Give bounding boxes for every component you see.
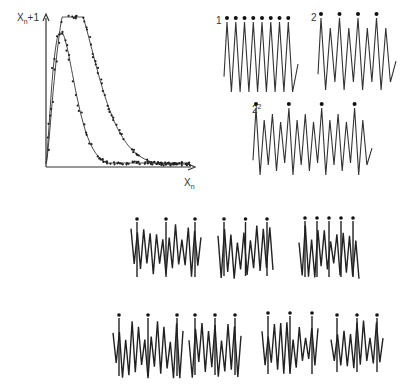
outer-data-point — [94, 60, 96, 62]
outer-data-point — [115, 124, 117, 126]
period-1-label-text: 1 — [216, 15, 222, 26]
peak-marker-dot — [310, 311, 314, 315]
inner-data-point — [64, 39, 66, 41]
outer-data-point — [71, 15, 73, 17]
outer-data-point — [108, 108, 110, 110]
inner-data-point — [85, 132, 87, 134]
outer-data-point — [108, 111, 110, 113]
peak-marker-dot — [260, 16, 264, 20]
period-1-label: 1 — [216, 16, 222, 26]
peak-marker-dot — [269, 16, 273, 20]
outer-data-point — [60, 21, 62, 23]
return-map-plot — [43, 14, 195, 170]
outer-data-point — [97, 67, 99, 69]
peak-marker-dot — [213, 313, 217, 317]
outer-data-point — [89, 36, 91, 38]
peak-marker-dot — [225, 16, 229, 20]
y-axis-label-main: X — [17, 12, 24, 23]
inner-data-point — [86, 134, 88, 136]
chaotic-series-1 — [131, 217, 201, 277]
periodic-series-1 — [224, 16, 298, 92]
inner-data-point — [153, 161, 155, 163]
inner-data-point — [168, 163, 170, 165]
peak-marker-dot — [315, 216, 319, 220]
peak-marker-dot — [251, 16, 255, 20]
outer-data-point — [58, 42, 60, 44]
outer-data-point — [131, 148, 133, 150]
chaotic-series-6 — [262, 311, 318, 374]
outer-data-point — [86, 28, 88, 30]
inner-data-point — [51, 67, 53, 69]
outer-data-point — [181, 164, 183, 166]
peak-marker-dot — [287, 102, 291, 106]
inner-data-point — [144, 163, 146, 165]
outer-data-point — [100, 78, 102, 80]
inner-data-point — [66, 44, 68, 46]
outer-data-point — [95, 63, 97, 65]
outer-data-point — [68, 15, 70, 17]
outer-data-point — [162, 164, 164, 166]
peak-marker-dot — [353, 102, 357, 106]
outer-data-point — [112, 117, 114, 119]
outer-data-point — [48, 149, 50, 151]
peak-marker-dot — [355, 313, 359, 317]
peak-marker-dot — [233, 313, 237, 317]
period-4-label: 22 — [252, 103, 261, 115]
outer-data-point — [83, 20, 85, 22]
chaotic-series-7 — [331, 313, 383, 372]
inner-data-point — [134, 161, 136, 163]
peak-marker-dot — [375, 12, 379, 16]
outer-data-point — [92, 56, 94, 58]
outer-data-point — [138, 154, 140, 156]
peak-marker-dot — [327, 216, 331, 220]
inner-data-point — [106, 162, 108, 164]
peak-marker-dot — [193, 313, 197, 317]
inner-data-point — [68, 59, 70, 61]
peak-marker-dot — [351, 216, 355, 220]
inner-data-point — [175, 162, 177, 164]
period-2-label: 2 — [311, 13, 317, 23]
inner-data-point — [109, 163, 111, 165]
inner-data-point — [151, 163, 153, 165]
outer-data-point — [111, 114, 113, 116]
peak-marker-dot — [288, 311, 292, 315]
period-4-label-exponent: 2 — [258, 103, 262, 110]
outer-data-point — [90, 44, 92, 46]
inner-data-point — [83, 123, 85, 125]
outer-data-point — [102, 90, 104, 92]
peak-marker-dot — [164, 217, 168, 221]
x-axis-label-main: X — [184, 177, 191, 188]
inner-fit-curve — [46, 33, 189, 163]
outer-data-point — [97, 72, 99, 74]
peak-marker-dot — [320, 102, 324, 106]
outer-data-point — [76, 15, 78, 17]
inner-data-point — [68, 54, 70, 56]
inner-data-point — [97, 155, 99, 157]
peak-marker-dot — [335, 313, 339, 317]
period-2-label-text: 2 — [311, 12, 317, 23]
peak-marker-dot — [356, 12, 360, 16]
outer-fit-curve — [46, 17, 189, 164]
chaotic-time-series-group — [113, 216, 383, 378]
periodic-series-2 — [318, 12, 396, 90]
outer-data-point — [107, 105, 109, 107]
peak-marker-dot — [243, 16, 247, 20]
waveform-line — [253, 108, 372, 175]
outer-data-point — [121, 133, 123, 135]
x-axis-label: Xn — [184, 178, 195, 190]
inner-data-point — [185, 163, 187, 165]
y-axis-label: Xn+1 — [17, 13, 39, 25]
periodic-series-3 — [253, 102, 372, 175]
peak-marker-dot — [319, 12, 323, 16]
inner-data-point — [103, 161, 105, 163]
inner-data-point — [61, 33, 63, 35]
outer-data-point — [104, 94, 106, 96]
peak-marker-dot — [303, 216, 307, 220]
outer-data-point — [85, 26, 87, 28]
inner-data-point — [59, 33, 61, 35]
peak-marker-dot — [234, 16, 238, 20]
inner-data-point — [155, 163, 157, 165]
inner-data-point — [113, 161, 115, 163]
outer-data-point — [132, 151, 134, 153]
outer-data-point — [47, 136, 49, 138]
